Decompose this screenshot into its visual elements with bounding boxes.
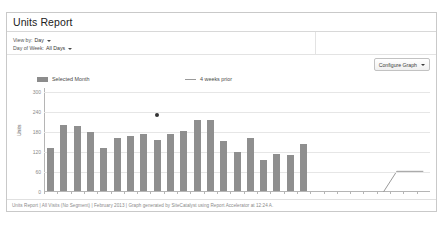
- x-axis-tick-mark: [390, 191, 391, 194]
- filter-view-by-label: View by:: [13, 36, 33, 44]
- plot-region: [44, 92, 430, 192]
- legend-label-selected-month: Selected Month: [52, 76, 89, 82]
- chart-bar[interactable]: [260, 160, 267, 191]
- data-point-marker[interactable]: [155, 113, 159, 117]
- x-axis-tick-mark: [177, 191, 178, 194]
- chart-bar[interactable]: [167, 134, 174, 191]
- chart-bar[interactable]: [74, 126, 81, 191]
- chevron-down-icon[interactable]: [421, 64, 425, 66]
- x-axis-tick-mark: [324, 191, 325, 194]
- filter-day-of-week[interactable]: Day of Week: All Days: [13, 44, 315, 52]
- chart-bar[interactable]: [154, 140, 161, 191]
- chart-bar[interactable]: [127, 136, 134, 191]
- panel-header: Units Report: [7, 13, 436, 32]
- y-axis-tick-label: 120: [33, 150, 41, 155]
- chart-bar[interactable]: [180, 131, 187, 191]
- footer-text: Units Report | All Visits (No Segment) |…: [12, 203, 273, 208]
- x-axis-tick-mark: [204, 191, 205, 194]
- x-axis-tick-mark: [111, 191, 112, 194]
- legend-label-4-weeks-prior: 4 weeks prior: [200, 76, 232, 82]
- x-axis-tick-mark: [137, 191, 138, 194]
- filter-column-secondary: [316, 32, 436, 54]
- x-axis-tick-mark: [284, 191, 285, 194]
- chart-bar[interactable]: [234, 152, 241, 191]
- action-row: Configure Graph: [7, 55, 436, 74]
- x-axis-tick-mark: [297, 191, 298, 194]
- chart-bar[interactable]: [87, 132, 94, 191]
- chart-bar[interactable]: [100, 148, 107, 191]
- x-axis-tick-mark: [350, 191, 351, 194]
- chart-bar[interactable]: [220, 141, 227, 191]
- page-title: Units Report: [13, 16, 73, 28]
- chart-bar[interactable]: [114, 138, 121, 191]
- chart-bar[interactable]: [194, 120, 201, 191]
- x-axis-tick-mark: [403, 191, 404, 194]
- chart-bar[interactable]: [140, 134, 147, 191]
- chevron-down-icon[interactable]: [68, 48, 72, 50]
- x-axis-tick-mark: [190, 191, 191, 194]
- chart-area: Units 300240180120600 123456789101112131…: [7, 88, 436, 200]
- chart-bar[interactable]: [300, 144, 307, 191]
- panel-footer: Units Report | All Visits (No Segment) |…: [7, 199, 436, 211]
- filter-day-of-week-label: Day of Week:: [13, 44, 44, 52]
- x-axis-tick-mark: [150, 191, 151, 194]
- chart-bar[interactable]: [287, 155, 294, 191]
- x-axis-tick-mark: [310, 191, 311, 194]
- chart-bar[interactable]: [60, 125, 67, 191]
- gridline: [44, 112, 430, 113]
- y-axis-ticks: 300240180120600: [21, 88, 41, 200]
- chart-bar[interactable]: [273, 154, 280, 191]
- y-axis-tick-label: 60: [35, 170, 41, 175]
- configure-graph-label: Configure Graph: [379, 62, 417, 68]
- legend-swatch-line-icon: [185, 79, 196, 80]
- x-axis-tick-mark: [377, 191, 378, 194]
- y-axis-tick-label: 180: [33, 130, 41, 135]
- x-axis-tick-mark: [71, 191, 72, 194]
- filter-column-primary: View by: Day Day of Week: All Days: [7, 32, 316, 54]
- y-axis-tick-label: 240: [33, 110, 41, 115]
- configure-graph-button[interactable]: Configure Graph: [374, 58, 430, 71]
- legend-item-4-weeks-prior: 4 weeks prior: [185, 76, 232, 82]
- gridline: [44, 92, 430, 93]
- x-axis-tick-mark: [164, 191, 165, 194]
- x-axis-tick-mark: [230, 191, 231, 194]
- chart-bar[interactable]: [207, 120, 214, 191]
- trend-line-path: [383, 171, 423, 192]
- x-axis-tick-mark: [84, 191, 85, 194]
- legend-item-selected-month: Selected Month: [37, 76, 89, 82]
- filter-view-by[interactable]: View by: Day: [13, 36, 315, 44]
- x-axis-tick-mark: [337, 191, 338, 194]
- x-axis-tick-mark: [124, 191, 125, 194]
- chart-legend: Selected Month 4 weeks prior: [7, 74, 436, 87]
- gridline: [44, 132, 430, 133]
- units-report-panel: Units Report View by: Day Day of Week: A…: [6, 12, 437, 212]
- legend-swatch-bar-icon: [37, 77, 48, 82]
- chart-bar[interactable]: [247, 138, 254, 191]
- x-axis-tick-mark: [44, 191, 45, 194]
- filter-day-of-week-value: All Days: [46, 44, 65, 52]
- x-axis-tick-mark: [217, 191, 218, 194]
- x-axis-tick-mark: [363, 191, 364, 194]
- y-axis-tick-label: 0: [38, 190, 41, 195]
- x-axis-tick-mark: [270, 191, 271, 194]
- filter-bar: View by: Day Day of Week: All Days: [7, 32, 436, 55]
- chart-bar[interactable]: [47, 148, 54, 191]
- x-axis-tick-mark: [57, 191, 58, 194]
- chevron-down-icon[interactable]: [47, 40, 51, 42]
- x-axis-tick-mark: [244, 191, 245, 194]
- x-axis-tick-mark: [257, 191, 258, 194]
- filter-view-by-value: Day: [35, 36, 44, 44]
- y-axis-tick-label: 300: [33, 90, 41, 95]
- x-axis-tick-mark: [97, 191, 98, 194]
- x-axis-tick-mark: [417, 191, 418, 194]
